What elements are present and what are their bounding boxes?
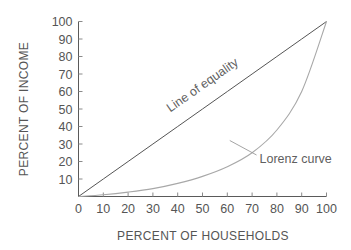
chart-canvas: 102030405060708090100 010203040506070809… — [0, 0, 351, 250]
x-axis-title: PERCENT OF HOUSEHOLDS — [117, 229, 289, 243]
x-tick-label: 60 — [220, 202, 234, 216]
y-tick-label: 30 — [59, 138, 73, 152]
lorenz-curve-leader-line — [230, 141, 257, 156]
x-tick-label: 40 — [171, 202, 185, 216]
x-tick-label: 100 — [316, 202, 337, 216]
lorenz-curve-chart: 102030405060708090100 010203040506070809… — [0, 0, 351, 250]
x-tick-label: 90 — [295, 202, 309, 216]
line-of-equality-label: Line of equality — [164, 55, 242, 115]
y-tick-label: 10 — [59, 173, 73, 187]
x-axis-ticks — [103, 193, 326, 197]
y-axis-tick-labels: 102030405060708090100 — [52, 15, 73, 187]
y-tick-label: 80 — [59, 50, 73, 64]
y-tick-label: 40 — [59, 120, 73, 134]
y-tick-label: 20 — [59, 155, 73, 169]
x-tick-label: 50 — [196, 202, 210, 216]
x-tick-label: 30 — [146, 202, 160, 216]
lorenz-curve-label: Lorenz curve — [260, 152, 332, 166]
x-tick-label: 20 — [121, 202, 135, 216]
x-tick-label: 10 — [96, 202, 110, 216]
y-tick-label: 70 — [59, 68, 73, 82]
x-tick-label: 80 — [270, 202, 284, 216]
y-tick-label: 90 — [59, 33, 73, 47]
y-tick-label: 50 — [59, 103, 73, 117]
x-tick-label: 70 — [245, 202, 259, 216]
y-tick-label: 60 — [59, 85, 73, 99]
y-tick-label: 100 — [52, 15, 73, 29]
x-tick-label: 0 — [75, 202, 82, 216]
line-of-equality-series — [79, 22, 327, 197]
x-axis-tick-labels: 0102030405060708090100 — [75, 202, 337, 216]
y-axis-title: PERCENT OF INCOME — [17, 42, 31, 176]
y-axis-ticks — [79, 22, 83, 180]
